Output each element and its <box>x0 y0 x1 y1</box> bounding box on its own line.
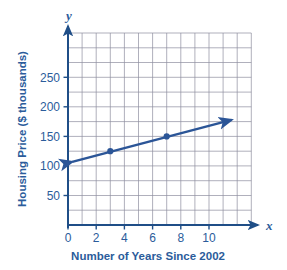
x-tick-label: 2 <box>93 231 100 245</box>
y-tick-label: 200 <box>40 100 60 114</box>
x-tick-label: 6 <box>149 231 156 245</box>
x-axis-letter: x <box>265 218 273 233</box>
data-point-marker <box>164 133 170 139</box>
y-tick-label: 150 <box>40 130 60 144</box>
x-tick-label: 0 <box>65 231 72 245</box>
housing-price-line-chart: 50 100 150 200 250 0 2 4 6 8 10 y x Numb… <box>0 0 287 270</box>
x-axis-title: Number of Years Since 2002 <box>71 250 225 262</box>
x-tick-label: 10 <box>202 231 216 245</box>
y-tick-label: 250 <box>40 71 60 85</box>
y-tick-label: 100 <box>40 159 60 173</box>
y-tick-label: 50 <box>47 189 61 203</box>
x-tick-label: 4 <box>121 231 128 245</box>
data-point-marker <box>107 148 113 154</box>
x-tick-label: 8 <box>177 231 184 245</box>
y-axis-title: Housing Price ($ thousands) <box>16 51 28 207</box>
y-axis-letter: y <box>64 8 72 23</box>
chart-canvas: 50 100 150 200 250 0 2 4 6 8 10 y x Numb… <box>0 0 287 270</box>
